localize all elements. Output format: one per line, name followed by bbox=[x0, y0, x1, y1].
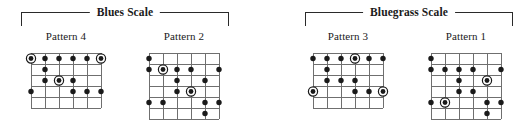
root-note-dot bbox=[381, 89, 386, 94]
note-dot bbox=[338, 78, 343, 83]
root-note-dot bbox=[161, 67, 166, 72]
note-dot bbox=[324, 67, 329, 72]
fretboard-grid bbox=[307, 47, 389, 114]
pattern-4: Pattern 4 bbox=[16, 30, 116, 118]
note-dot bbox=[470, 67, 475, 72]
note-dot bbox=[202, 78, 207, 83]
fretboard-diagram bbox=[425, 47, 507, 123]
note-dot bbox=[70, 56, 75, 61]
note-dot bbox=[324, 78, 329, 83]
note-dot bbox=[28, 89, 33, 94]
root-note-dot bbox=[99, 56, 104, 61]
note-dot bbox=[202, 100, 207, 105]
note-dot bbox=[498, 67, 503, 72]
note-dot bbox=[188, 67, 193, 72]
group-title: Blues Scale bbox=[90, 5, 160, 19]
note-dot bbox=[174, 67, 179, 72]
root-note-dot bbox=[443, 100, 448, 105]
note-dot bbox=[456, 89, 461, 94]
group-blues: Blues Scale bbox=[21, 8, 229, 26]
group-title: Bluegrass Scale bbox=[363, 5, 455, 19]
note-dot bbox=[216, 67, 221, 72]
note-dot bbox=[352, 78, 357, 83]
note-dot bbox=[456, 78, 461, 83]
note-dot bbox=[366, 89, 371, 94]
note-dot bbox=[456, 67, 461, 72]
pattern-3: Pattern 3 bbox=[298, 30, 398, 118]
note-dot bbox=[428, 67, 433, 72]
note-dot bbox=[98, 89, 103, 94]
pattern-2: Pattern 2 bbox=[134, 30, 234, 123]
fretboard-diagram bbox=[25, 47, 107, 114]
note-dot bbox=[174, 78, 179, 83]
note-dot bbox=[202, 111, 207, 116]
note-dot bbox=[498, 100, 503, 105]
fretboard-diagram bbox=[307, 47, 389, 114]
note-dot bbox=[484, 100, 489, 105]
note-dot bbox=[428, 56, 433, 61]
pattern-label: Pattern 3 bbox=[298, 30, 398, 43]
note-dot bbox=[352, 89, 357, 94]
note-dot bbox=[442, 67, 447, 72]
note-dot bbox=[42, 67, 47, 72]
note-dot bbox=[366, 56, 371, 61]
root-note-dot bbox=[29, 56, 34, 61]
note-dot bbox=[146, 67, 151, 72]
root-note-dot bbox=[57, 78, 62, 83]
note-dot bbox=[338, 56, 343, 61]
note-dot bbox=[42, 56, 47, 61]
pattern-label: Pattern 2 bbox=[134, 30, 234, 43]
note-dot bbox=[70, 89, 75, 94]
root-note-dot bbox=[353, 56, 358, 61]
fretboard-diagram bbox=[143, 47, 225, 123]
note-dot bbox=[42, 78, 47, 83]
fretboard-grid bbox=[25, 47, 107, 114]
pattern-label: Pattern 1 bbox=[416, 30, 516, 43]
note-dot bbox=[310, 56, 315, 61]
note-dot bbox=[324, 56, 329, 61]
note-dot bbox=[428, 100, 433, 105]
pattern-label: Pattern 4 bbox=[16, 30, 116, 43]
root-note-dot bbox=[485, 78, 490, 83]
scale-pattern-chart: Blues Scale Bluegrass Scale Pattern 4 Pa… bbox=[0, 0, 529, 123]
note-dot bbox=[146, 56, 151, 61]
note-dot bbox=[146, 100, 151, 105]
note-dot bbox=[484, 111, 489, 116]
note-dot bbox=[84, 89, 89, 94]
note-dot bbox=[56, 56, 61, 61]
note-dot bbox=[84, 56, 89, 61]
group-bluegrass: Bluegrass Scale bbox=[305, 8, 513, 26]
pattern-1: Pattern 1 bbox=[416, 30, 516, 123]
note-dot bbox=[160, 100, 165, 105]
root-note-dot bbox=[311, 89, 316, 94]
note-dot bbox=[216, 100, 221, 105]
fretboard-grid bbox=[143, 47, 225, 123]
fretboard-grid bbox=[425, 47, 507, 123]
note-dot bbox=[70, 78, 75, 83]
note-dot bbox=[174, 89, 179, 94]
note-dot bbox=[470, 89, 475, 94]
note-dot bbox=[380, 56, 385, 61]
root-note-dot bbox=[189, 89, 194, 94]
